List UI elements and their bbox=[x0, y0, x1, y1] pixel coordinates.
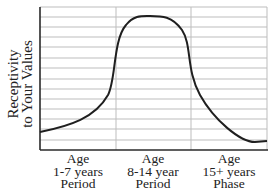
x-tick-period-2: Age 8-14 year Period bbox=[115, 153, 191, 191]
x-tick-period-3: Age 15+ years Phase bbox=[191, 153, 267, 191]
x-tick-label: Phase bbox=[191, 178, 267, 191]
y-axis-label-line-1: Receptivity bbox=[6, 19, 20, 149]
y-axis-label-line-2: to Your Values bbox=[20, 19, 34, 149]
receptivity-chart: Receptivity to Your Values Age 1-7 years… bbox=[0, 0, 272, 191]
x-tick-label: Period bbox=[40, 178, 116, 191]
horizontal-gridlines bbox=[40, 7, 267, 140]
x-tick-period-1: Age 1-7 years Period bbox=[40, 153, 116, 191]
y-axis-label: Receptivity to Your Values bbox=[0, 0, 40, 150]
x-tick-label: Period bbox=[115, 178, 191, 191]
